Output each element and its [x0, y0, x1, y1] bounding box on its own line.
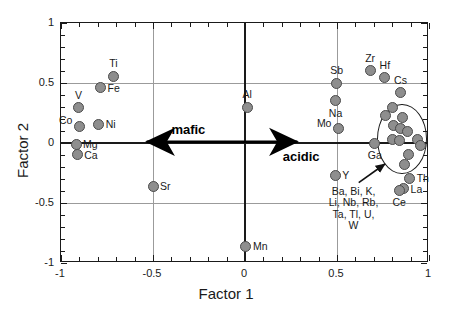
data-point-label: Mo — [317, 118, 332, 129]
data-point-label: V — [75, 89, 82, 100]
scatter-plot-figure: Factor 2 Factor 1 -1-0.500.51 -1-0.500.5… — [0, 0, 452, 310]
y-tick-mark — [61, 47, 65, 48]
trend-label-mafic: mafic — [171, 122, 205, 137]
x-tick-mark — [227, 23, 228, 27]
data-point — [108, 71, 119, 82]
x-tick-mark — [116, 257, 117, 261]
x-tick-mark — [153, 23, 154, 29]
data-point-label: Ga — [368, 150, 382, 161]
data-point — [242, 102, 253, 113]
data-point-label: Ca — [84, 150, 97, 161]
x-tick-mark — [374, 23, 375, 27]
data-point — [71, 139, 82, 150]
y-tick-mark — [61, 71, 65, 72]
y-tick-mark — [423, 71, 427, 72]
data-point — [331, 78, 342, 89]
y-tick-mark — [423, 119, 427, 120]
x-tick-mark — [337, 255, 338, 261]
x-tick-mark — [392, 257, 393, 261]
y-tick-mark — [61, 179, 65, 180]
data-point-label: Y — [342, 170, 349, 181]
x-tick-mark — [135, 257, 136, 261]
y-tick-label: 0 — [26, 136, 54, 148]
cluster-data-point — [399, 159, 410, 170]
x-tick-mark — [355, 257, 356, 261]
x-tick-mark — [153, 255, 154, 261]
x-tick-label: 1 — [425, 267, 431, 279]
y-tick-mark — [61, 263, 67, 264]
y-tick-mark — [61, 155, 65, 156]
data-point-label: Zr — [365, 52, 375, 63]
data-point — [379, 72, 390, 83]
x-tick-mark — [429, 23, 430, 29]
data-point — [330, 95, 341, 106]
x-tick-mark — [411, 23, 412, 27]
data-point-label: Cs — [394, 74, 407, 85]
y-tick-label: 1 — [26, 16, 54, 28]
y-tick-mark — [61, 131, 65, 132]
data-point — [365, 65, 376, 76]
data-point — [395, 87, 406, 98]
data-point-label: Co — [59, 115, 72, 126]
x-tick-mark — [171, 257, 172, 261]
data-point — [74, 121, 85, 132]
x-tick-label: 0.5 — [328, 267, 343, 279]
data-point-label: Ce — [392, 197, 405, 208]
y-tick-mark — [61, 107, 65, 108]
y-tick-label: -0.5 — [26, 196, 54, 208]
x-tick-mark — [337, 23, 338, 29]
data-point-label: Sb — [330, 65, 343, 76]
y-tick-mark — [423, 35, 427, 36]
x-tick-mark — [135, 23, 136, 27]
x-tick-mark — [98, 257, 99, 261]
data-point — [333, 123, 344, 134]
data-point — [369, 138, 380, 149]
y-tick-mark — [423, 95, 427, 96]
trend-label-acidic: acidic — [283, 149, 320, 164]
y-tick-mark — [61, 59, 65, 60]
y-tick-mark — [61, 203, 67, 204]
cluster-annotation-line: Li, Nb, Rb, — [329, 197, 379, 209]
x-tick-mark — [374, 257, 375, 261]
y-tick-mark — [423, 227, 427, 228]
x-tick-mark — [208, 257, 209, 261]
y-tick-mark — [61, 227, 65, 228]
x-tick-mark — [392, 23, 393, 27]
x-tick-mark — [190, 257, 191, 261]
y-tick-mark — [61, 83, 67, 84]
x-tick-mark — [171, 23, 172, 27]
x-tick-mark — [116, 23, 117, 27]
x-tick-mark — [319, 257, 320, 261]
x-tick-mark — [79, 23, 80, 27]
data-point — [73, 102, 84, 113]
y-tick-mark — [61, 95, 65, 96]
x-tick-mark — [319, 23, 320, 27]
x-tick-mark — [208, 23, 209, 27]
x-axis-title: Factor 1 — [0, 285, 452, 302]
x-tick-mark — [190, 23, 191, 27]
y-tick-mark — [61, 167, 65, 168]
data-point-label: Fe — [108, 82, 120, 93]
x-tick-mark — [79, 257, 80, 261]
data-point — [240, 241, 251, 252]
plot-area: TiFeVNiCoMgCaSrMnAlSbNaMoYZrHfCsGaThLaCe… — [60, 22, 428, 262]
y-tick-mark — [423, 47, 427, 48]
x-tick-label: 0 — [241, 267, 247, 279]
x-tick-mark — [227, 257, 228, 261]
data-point-label: Sr — [160, 181, 171, 192]
zero-axis-vertical — [244, 23, 245, 261]
y-tick-mark — [421, 83, 427, 84]
y-tick-mark — [423, 251, 427, 252]
y-tick-mark — [421, 203, 427, 204]
y-tick-mark — [423, 59, 427, 60]
cluster-data-point — [380, 110, 391, 121]
data-point-label: Mn — [253, 241, 268, 252]
data-point — [72, 149, 83, 160]
data-point — [148, 181, 159, 192]
cluster-annotation-line: W — [329, 220, 379, 232]
y-tick-mark — [61, 215, 65, 216]
data-point — [330, 170, 341, 181]
y-tick-mark — [421, 263, 427, 264]
x-tick-mark — [263, 257, 264, 261]
x-tick-mark — [282, 23, 283, 27]
